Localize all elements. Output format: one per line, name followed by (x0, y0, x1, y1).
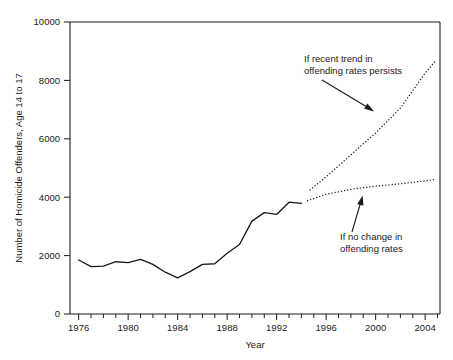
x-tick-label-1988: 1988 (217, 322, 238, 333)
y-tick-label-4000: 4000 (39, 192, 60, 203)
x-tick-label-1996: 1996 (316, 322, 337, 333)
y-tick-label-6000: 6000 (39, 133, 60, 144)
lower-annotation-line-1: If no change in (340, 231, 402, 242)
lower-annotation-line-2: offending rates (340, 243, 403, 254)
y-tick-label-0: 0 (55, 308, 60, 319)
y-tick-label-2000: 2000 (39, 250, 60, 261)
x-axis-title: Year (245, 339, 264, 350)
x-tick-label-1992: 1992 (266, 322, 287, 333)
y-tick-label-10000: 10000 (34, 16, 60, 27)
x-tick-label-1976: 1976 (68, 322, 89, 333)
upper-annotation-line-2: offending rates persists (304, 65, 402, 76)
x-tick-label-1984: 1984 (167, 322, 188, 333)
y-axis-title: Number of Homicide Offenders, Age 14 to … (13, 73, 24, 262)
x-tick-label-2004: 2004 (415, 322, 436, 333)
homicide-offenders-chart: 10000 8000 6000 4000 2000 0 197619801984… (0, 0, 453, 360)
upper-annotation-line-1: If recent trend in (304, 53, 373, 64)
x-tick-label-2000: 2000 (365, 322, 386, 333)
chart-canvas: 10000 8000 6000 4000 2000 0 197619801984… (0, 0, 453, 360)
y-tick-label-8000: 8000 (39, 75, 60, 86)
y-axis-ticks: 10000 8000 6000 4000 2000 0 (34, 16, 70, 319)
x-axis-ticks: 19761980198419881992199620002004 (68, 314, 437, 333)
x-tick-label-1980: 1980 (118, 322, 139, 333)
